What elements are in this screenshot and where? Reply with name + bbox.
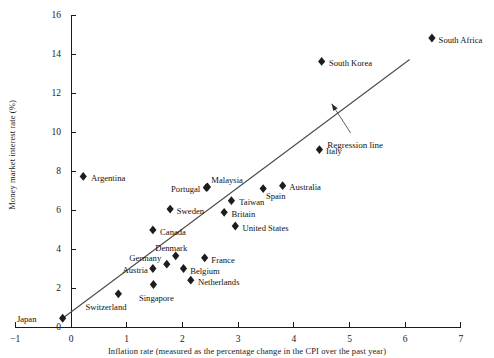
data-point-label: Switzerland xyxy=(85,302,127,312)
data-point-marker xyxy=(221,208,228,217)
data-point-label: Argentina xyxy=(91,173,125,183)
data-point-label: Belgium xyxy=(190,266,220,276)
data-point-label: South Africa xyxy=(439,35,483,45)
data-point-label: Portugal xyxy=(171,184,201,194)
data-point-label: United States xyxy=(243,223,290,233)
data-point-label: Malaysia xyxy=(211,175,243,185)
data-point-marker xyxy=(115,289,122,298)
data-point-label: Denmark xyxy=(155,243,188,253)
y-tick-label: 6 xyxy=(56,205,61,215)
plot-area: −1012345670246810121416 JapanSwitzerland… xyxy=(0,0,494,358)
y-tick-label: 14 xyxy=(52,49,62,59)
data-point-label: Japan xyxy=(17,314,37,324)
data-point-marker xyxy=(428,34,435,43)
y-tick-label: 4 xyxy=(56,244,61,254)
data-point-marker xyxy=(80,172,87,181)
data-point-marker xyxy=(187,276,194,285)
data-point-label: Australia xyxy=(289,182,321,192)
data-point-marker xyxy=(318,57,325,66)
x-tick-label: −1 xyxy=(10,334,20,344)
scatter-chart-figure: Money market interest rate (%) Inflation… xyxy=(0,0,494,358)
data-point-label: South Korea xyxy=(329,58,372,68)
data-point-labels: JapanSwitzerlandSingaporeNetherlandsAust… xyxy=(17,35,483,325)
data-point-marker xyxy=(201,253,208,262)
data-point-label: Netherlands xyxy=(198,277,240,287)
data-point-marker xyxy=(167,205,174,214)
annotation-label: Regression line xyxy=(327,140,383,150)
y-tick-label: 10 xyxy=(52,127,62,137)
data-point-marker xyxy=(149,225,156,234)
y-tick-label: 8 xyxy=(56,166,61,176)
data-point-marker xyxy=(150,280,157,289)
data-point-label: Austria xyxy=(123,265,148,275)
x-tick-label: 4 xyxy=(291,334,296,344)
regression-annotation: Regression line xyxy=(327,104,383,150)
x-tick-label: 3 xyxy=(236,334,241,344)
x-tick-label: 6 xyxy=(403,334,408,344)
data-point-label: Spain xyxy=(266,191,286,201)
x-tick-label: 5 xyxy=(347,334,352,344)
data-point-marker xyxy=(228,196,235,205)
data-point-label: Britain xyxy=(231,209,256,219)
y-tick-label: 2 xyxy=(56,283,61,293)
data-point-marker xyxy=(172,251,179,260)
data-point-marker xyxy=(59,314,66,323)
y-tick-label: 12 xyxy=(52,88,62,98)
data-point-marker xyxy=(232,222,239,231)
x-tick-label: 7 xyxy=(459,334,464,344)
data-point-marker xyxy=(316,145,323,154)
data-point-label: Germany xyxy=(129,253,162,263)
data-point-marker xyxy=(149,264,156,273)
annotation-arrowhead xyxy=(332,104,338,111)
data-point-label: Sweden xyxy=(177,206,205,216)
y-tick-label: 16 xyxy=(52,10,62,20)
data-point-label: France xyxy=(211,255,235,265)
x-tick-label: 1 xyxy=(124,334,129,344)
x-tick-label: 0 xyxy=(69,334,74,344)
data-point-label: Singapore xyxy=(139,293,174,303)
data-point-marker xyxy=(180,264,187,273)
x-tick-label: 2 xyxy=(180,334,185,344)
data-point-marker xyxy=(279,181,286,190)
y-tick-label: 0 xyxy=(56,322,61,332)
data-point-label: Taiwan xyxy=(239,197,265,207)
data-point-label: Canada xyxy=(160,227,186,237)
data-point-marker xyxy=(163,260,170,269)
